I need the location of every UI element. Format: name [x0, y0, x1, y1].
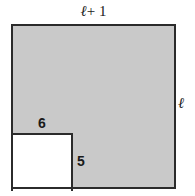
white-notch-rectangle	[11, 133, 73, 191]
label-notch-height: 5	[77, 154, 85, 168]
label-top-side: ℓ+ 1	[0, 4, 187, 19]
label-notch-width: 6	[11, 116, 73, 130]
label-right-side: ℓ	[178, 96, 184, 111]
geometry-figure: ℓ+ 1 ℓ 6 5	[0, 0, 195, 196]
label-top-operator: + 1	[87, 3, 107, 19]
notch-base-edge	[11, 187, 73, 189]
